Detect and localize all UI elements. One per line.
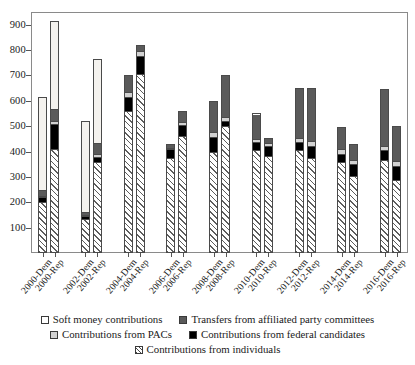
bar-segment-individuals — [222, 127, 229, 252]
bar-segment-softmoney — [39, 98, 46, 191]
bar-segment-individuals — [210, 153, 217, 252]
chart-legend: Soft money contributions Transfers from … — [0, 312, 415, 357]
bar-segment-individuals — [94, 163, 101, 252]
legend-label-pacs: Contributions from PACs — [62, 327, 172, 342]
legend-label-individuals: Contributions from individuals — [147, 342, 281, 357]
bar-2008-dem — [209, 101, 218, 253]
bar-segment-transfers — [125, 76, 132, 92]
y-axis: 100200300400500600700800900 — [0, 0, 31, 265]
bar-segment-softmoney — [82, 122, 89, 213]
bar-2014-dem — [337, 127, 346, 253]
x-tick-mark — [397, 253, 398, 257]
bar-segment-transfers — [393, 127, 400, 162]
legend-row-2: Contributions from PACs Contributions fr… — [0, 327, 415, 342]
legend-swatch-individuals-icon — [135, 346, 143, 354]
bar-segment-transfers — [210, 102, 217, 133]
bar-segment-individuals — [338, 163, 345, 252]
bar-segment-individuals — [350, 177, 357, 252]
bar-2000-rep — [50, 21, 59, 253]
x-tick-mark — [43, 253, 44, 257]
bar-2012-rep — [307, 88, 316, 253]
bars-layer — [31, 12, 408, 253]
bar-2014-rep — [349, 144, 358, 253]
legend-label-transfers: Transfers from affiliated party committe… — [191, 312, 374, 327]
bar-segment-individuals — [381, 161, 388, 252]
bar-segment-fedcand — [210, 138, 217, 153]
bar-segment-fedcand — [125, 98, 132, 112]
legend-item-pacs: Contributions from PACs — [50, 327, 172, 342]
bar-segment-fedcand — [296, 143, 303, 151]
y-tick-label: 300 — [10, 172, 26, 182]
bar-segment-fedcand — [381, 151, 388, 161]
bar-2016-dem — [380, 89, 389, 253]
bar-2004-rep — [136, 45, 145, 253]
x-tick-mark — [55, 253, 56, 257]
bar-segment-fedcand — [350, 165, 357, 177]
legend-row-3: Contributions from individuals — [0, 342, 415, 357]
stacked-bar-chart: 100200300400500600700800900 2000-Dem2000… — [0, 0, 415, 365]
legend-item-federal-candidates: Contributions from federal candidates — [189, 327, 365, 342]
bar-segment-fedcand — [308, 147, 315, 160]
bar-segment-softmoney — [94, 60, 101, 144]
bar-segment-individuals — [39, 203, 46, 252]
legend-swatch-soft-money-icon — [41, 316, 49, 324]
bar-2008-rep — [221, 75, 230, 253]
bar-segment-transfers — [222, 76, 229, 117]
x-tick-mark — [214, 253, 215, 257]
y-tick-label: 500 — [10, 121, 26, 131]
legend-item-transfers: Transfers from affiliated party committe… — [179, 312, 374, 327]
bar-2000-dem — [38, 97, 47, 253]
bar-segment-individuals — [167, 159, 174, 252]
bar-2004-dem — [124, 75, 133, 253]
bar-segment-fedcand — [137, 57, 144, 75]
bar-segment-transfers — [253, 115, 260, 140]
y-tick-label: 600 — [10, 96, 26, 106]
legend-item-soft-money: Soft money contributions — [41, 312, 163, 327]
bar-segment-individuals — [82, 220, 89, 252]
bar-segment-transfers — [338, 128, 345, 149]
bar-segment-individuals — [137, 75, 144, 252]
x-tick-mark — [226, 253, 227, 257]
bar-segment-fedcand — [253, 143, 260, 151]
bar-segment-fedcand — [167, 150, 174, 159]
legend-item-individuals: Contributions from individuals — [135, 342, 281, 357]
bar-2012-dem — [295, 88, 304, 253]
bar-segment-individuals — [253, 151, 260, 252]
y-tick-label: 900 — [10, 20, 26, 30]
bar-segment-fedcand — [51, 125, 58, 150]
legend-swatch-federal-candidates-icon — [189, 331, 197, 339]
bar-2002-dem — [81, 121, 90, 253]
legend-swatch-transfers-icon — [179, 316, 187, 324]
y-tick-label: 400 — [10, 147, 26, 157]
bar-segment-transfers — [381, 90, 388, 146]
bar-segment-individuals — [179, 137, 186, 252]
y-tick-label: 100 — [10, 223, 26, 233]
bar-segment-transfers — [179, 112, 186, 123]
legend-label-federal-candidates: Contributions from federal candidates — [201, 327, 365, 342]
bar-2010-rep — [264, 138, 273, 253]
bar-segment-individuals — [393, 181, 400, 252]
bar-2006-rep — [178, 111, 187, 253]
bar-segment-transfers — [94, 144, 101, 155]
bar-segment-individuals — [308, 159, 315, 252]
bar-segment-softmoney — [51, 22, 58, 110]
legend-row-1: Soft money contributions Transfers from … — [0, 312, 415, 327]
bar-2010-dem — [252, 113, 261, 253]
bar-2002-rep — [93, 59, 102, 253]
bar-segment-fedcand — [179, 126, 186, 137]
bar-segment-transfers — [308, 89, 315, 142]
bar-segment-individuals — [296, 151, 303, 252]
x-tick-mark — [385, 253, 386, 257]
bar-2006-dem — [166, 144, 175, 253]
bar-segment-individuals — [51, 150, 58, 252]
legend-swatch-pacs-icon — [50, 331, 58, 339]
bar-segment-individuals — [265, 157, 272, 252]
bar-2016-rep — [392, 126, 401, 253]
y-tick-label: 200 — [10, 197, 26, 207]
bar-segment-transfers — [350, 145, 357, 161]
legend-label-soft-money: Soft money contributions — [53, 312, 163, 327]
bar-segment-fedcand — [265, 147, 272, 157]
y-tick-label: 800 — [10, 45, 26, 55]
bar-segment-fedcand — [393, 167, 400, 181]
bar-segment-fedcand — [338, 155, 345, 164]
